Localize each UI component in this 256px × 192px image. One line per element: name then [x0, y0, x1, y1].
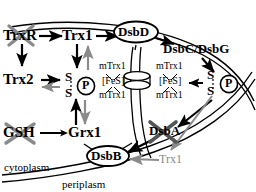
- node-label-grx1[interactable]: Grx1: [68, 125, 101, 140]
- node-label-dsbd[interactable]: DsbD: [118, 25, 149, 38]
- substrate-left-s-top: S: [65, 70, 72, 83]
- compartment-label-cytoplasm: cytoplasm: [4, 162, 49, 173]
- node-label-trx2[interactable]: Trx2: [3, 72, 34, 87]
- node-label-dsbcdsbg[interactable]: DsbC/DsbG: [163, 42, 229, 55]
- substrate-right-s-top: S: [207, 68, 214, 81]
- compartment-label-periplasm: periplasm: [62, 179, 105, 190]
- transporter-left-fes: [FeS]: [102, 76, 124, 86]
- transporter-disks: [124, 72, 150, 90]
- node-label-trx1-periplasm[interactable]: Trx1: [159, 153, 182, 165]
- transporter-right-fes: [FeS]: [159, 76, 181, 86]
- transporter-right-mtrx1-top: mTrx1: [156, 61, 183, 71]
- node-label-trx1-top[interactable]: Trx1: [62, 28, 93, 43]
- node-label-gsh[interactable]: GSH: [3, 125, 35, 140]
- substrate-right-phospho: P: [225, 77, 232, 89]
- diagram-canvas: TrxR Trx1 Trx2 GSH Grx1 DsbD DsbB DsbC/D…: [0, 0, 256, 192]
- node-label-dsbb[interactable]: DsbB: [91, 149, 121, 162]
- transporter-left-mtrx1-bottom: mTrx1: [99, 90, 126, 100]
- node-label-trxr[interactable]: TrxR: [3, 28, 37, 43]
- arrow-trx1-periplasm-to-dsbb-grey: [130, 159, 159, 160]
- dsbd-stem: [135, 45, 136, 50]
- substrate-right-s-bottom: S: [207, 84, 214, 97]
- substrate-left-s-bottom: S: [65, 86, 72, 99]
- transporter-left-mtrx1-top: mTrx1: [99, 61, 126, 71]
- node-label-dsba[interactable]: DsbA: [149, 124, 180, 137]
- substrate-left-phospho: P: [82, 79, 89, 91]
- transporter-right-mtrx1-bottom: mTrx1: [156, 90, 183, 100]
